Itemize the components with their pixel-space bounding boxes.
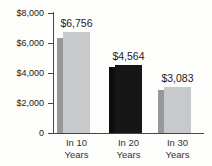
y-tick-label: $4,000 [0, 68, 44, 78]
bar-value-label: $3,083 [161, 72, 193, 84]
category-label: In 30Years [166, 137, 190, 161]
category-label-line: In 20 [117, 137, 141, 149]
bar-value-label: $6,756 [60, 17, 92, 29]
y-tick-label: 0 [0, 128, 44, 138]
y-tick-mark [48, 43, 53, 44]
y-tick-mark [48, 133, 53, 134]
y-tick-label: $8,000 [0, 8, 44, 18]
y-tick-mark [48, 73, 53, 74]
category-label: In 20Years [117, 137, 141, 161]
category-label-line: Years [117, 149, 141, 161]
y-axis-line [53, 12, 54, 133]
x-axis-line [53, 133, 204, 134]
y-tick-label: $2,000 [0, 98, 44, 108]
category-label-line: In 10 [65, 137, 89, 149]
main-bar [63, 32, 90, 133]
y-tick-label: $6,000 [0, 38, 44, 48]
bar-chart: 0$2,000$4,000$6,000$8,000$6,756In 10Year… [0, 0, 212, 166]
category-label-line: In 30 [166, 137, 190, 149]
y-tick-mark [48, 13, 53, 14]
category-label: In 10Years [65, 137, 89, 161]
category-label-line: Years [166, 149, 190, 161]
category-label-line: Years [65, 149, 89, 161]
main-bar [115, 65, 142, 133]
bar-value-label: $4,564 [112, 50, 144, 62]
main-bar [164, 87, 191, 133]
y-tick-mark [48, 103, 53, 104]
